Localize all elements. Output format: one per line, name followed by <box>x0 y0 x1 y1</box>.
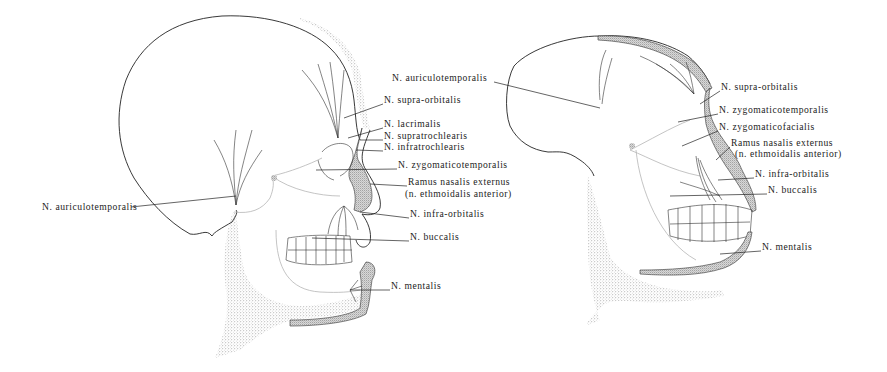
neck-shading <box>587 176 724 324</box>
label-ramus-nasalis-externus-left: Ramus nasalis externus <box>408 176 510 187</box>
human-skull-drawing <box>119 16 380 358</box>
mandible-line <box>636 150 696 260</box>
label-auriculotemporalis-left: N. auriculotemporalis <box>42 201 137 212</box>
label-lacrimalis-left: N. lacrimalis <box>384 118 441 129</box>
orbit <box>318 143 353 180</box>
label-infra-orbitalis-right: N. infra-orbitalis <box>755 168 829 179</box>
label-zygomaticotemporalis-left: N. zygomaticotemporalis <box>398 159 508 170</box>
neck-shading <box>215 212 366 358</box>
label-supratrochlearis-left: N. supratrochlearis <box>384 130 467 141</box>
chin <box>640 232 752 275</box>
label-supra-orbitalis-right: N. supra-orbitalis <box>721 81 798 92</box>
label-supra-orbitalis-left: N. supra-orbitalis <box>384 94 461 105</box>
label-mentalis-right: N. mentalis <box>762 241 812 252</box>
label-mentalis-left: N. mentalis <box>391 280 441 291</box>
label-infra-orbitalis-left: N. infra-orbitalis <box>410 208 484 219</box>
label-zygomaticofacialis-right: N. zygomaticofacialis <box>719 121 815 132</box>
infraorbital-nerve-fibers <box>328 206 358 236</box>
auriculotemporal-nerve-fibers <box>214 130 262 205</box>
cranium-outline <box>507 36 600 176</box>
label-auriculotemporalis-right: N. auriculotemporalis <box>392 72 487 83</box>
teeth <box>286 235 352 265</box>
brow-ridge <box>598 36 712 92</box>
label-ramus-nasalis-externus-right: Ramus nasalis externus <box>731 137 833 148</box>
label-buccalis-left: N. buccalis <box>410 231 459 242</box>
label-ethmoidalis-anterior-right: (n. ethmoidalis anterior) <box>735 148 842 159</box>
auriculotemporal-nerve-fibers <box>599 50 612 104</box>
label-ethmoidalis-anterior-left: (n. ethmoidalis anterior) <box>405 188 512 199</box>
label-buccalis-right: N. buccalis <box>768 184 817 195</box>
teeth <box>668 204 752 242</box>
supraorbital-nerve-fibers <box>302 62 344 138</box>
label-infratrochlearis-left: N. infratrochlearis <box>384 141 465 152</box>
nasal-profile <box>349 128 372 212</box>
label-zygomaticotemporalis-right: N. zygomaticotemporalis <box>719 104 829 115</box>
